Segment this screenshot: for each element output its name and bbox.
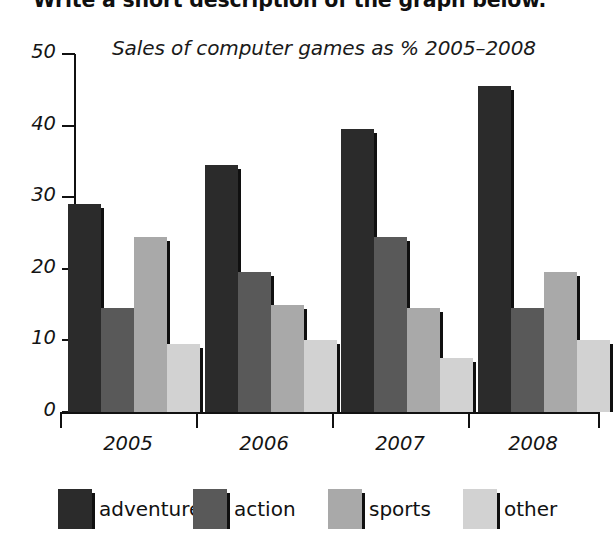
x-axis-tick-4 — [598, 412, 600, 428]
bar-adventure-2005 — [68, 204, 101, 412]
bar-other-2005 — [167, 344, 200, 412]
y-axis-label-20: 20 — [4, 257, 56, 277]
bar-action-2005 — [101, 308, 134, 412]
legend-label-adventure: adventure — [99, 499, 201, 519]
worksheet-page: Write a short description of the graph b… — [0, 0, 613, 549]
x-axis-label-2008: 2008 — [468, 432, 598, 455]
bar-sports-2005 — [134, 237, 167, 412]
x-axis-label-2005: 2005 — [60, 432, 196, 455]
bar-action-2007 — [374, 237, 407, 412]
bar-action-2008 — [511, 308, 544, 412]
x-axis-label-2007: 2007 — [332, 432, 468, 455]
y-axis-label-10: 10 — [4, 328, 56, 348]
legend-label-other: other — [504, 499, 557, 519]
legend-swatch-adventure — [58, 489, 92, 529]
x-axis-line — [60, 412, 600, 414]
bar-sports-2007 — [407, 308, 440, 412]
bar-adventure-2007 — [341, 129, 374, 412]
legend-swatch-sports — [328, 489, 362, 529]
legend-label-action: action — [234, 499, 296, 519]
x-axis-tick-0 — [60, 412, 62, 428]
x-axis-label-2006: 2006 — [196, 432, 332, 455]
bar-sports-2006 — [271, 305, 304, 412]
legend-label-sports: sports — [369, 499, 431, 519]
bar-action-2006 — [238, 272, 271, 412]
legend-item-other: other — [463, 487, 557, 531]
bar-other-2006 — [304, 340, 337, 412]
y-tick-50 — [62, 53, 75, 55]
y-tick-30 — [62, 196, 75, 198]
y-axis-label-30: 30 — [4, 185, 56, 205]
bar-sports-2008 — [544, 272, 577, 412]
y-axis-label-0: 0 — [4, 400, 56, 420]
bar-adventure-2006 — [205, 165, 238, 412]
x-axis-tick-3 — [468, 412, 470, 428]
x-axis-tick-1 — [196, 412, 198, 428]
legend-item-action: action — [193, 487, 296, 531]
bar-chart: 01020304050 2005200620072008 — [0, 0, 613, 480]
y-tick-40 — [62, 125, 75, 127]
legend-swatch-action — [193, 489, 227, 529]
legend-item-sports: sports — [328, 487, 431, 531]
legend-item-adventure: adventure — [58, 487, 201, 531]
y-axis-label-40: 40 — [4, 114, 56, 134]
x-axis-tick-2 — [332, 412, 334, 428]
chart-legend: adventureactionsportsother — [0, 487, 613, 535]
y-axis-label-50: 50 — [4, 42, 56, 62]
bar-adventure-2008 — [478, 86, 511, 412]
bar-other-2007 — [440, 358, 473, 412]
legend-swatch-other — [463, 489, 497, 529]
bar-other-2008 — [577, 340, 610, 412]
